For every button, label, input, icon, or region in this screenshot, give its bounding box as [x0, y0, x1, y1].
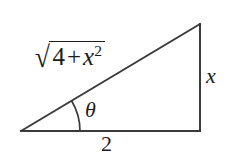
hypotenuse-label: √4+x2 [34, 40, 105, 72]
angle-theta-label: θ [85, 99, 96, 121]
right-triangle-figure: √4+x2 θ x 2 [0, 0, 235, 158]
plus-operator: + [65, 43, 83, 70]
radicand: 4+x2 [49, 41, 104, 70]
angle-arc [72, 101, 80, 131]
radicand-variable: x [83, 43, 94, 70]
radicand-exponent: 2 [94, 42, 102, 59]
radical-sign-icon: √ [35, 42, 50, 72]
base-length-label: 2 [101, 133, 112, 155]
triangle-svg [0, 0, 235, 158]
radical-expression: √4+x2 [34, 40, 105, 72]
radicand-first-term: 4 [52, 43, 65, 70]
vertical-leg-label: x [206, 65, 216, 87]
